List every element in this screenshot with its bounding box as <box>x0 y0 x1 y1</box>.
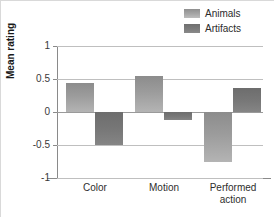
bar-color-artifacts <box>95 112 123 145</box>
gridline-zero: 0 <box>57 112 263 113</box>
legend-label-artifacts: Artifacts <box>205 23 241 34</box>
y-tick-label-0-5: 0.5 <box>36 74 50 84</box>
bar-color-animals <box>66 83 94 112</box>
tick-mark-0 <box>53 112 57 113</box>
bar-motion-artifacts <box>164 112 192 120</box>
y-tick-label-0: 0 <box>44 107 50 117</box>
y-tick-label-1: 1 <box>44 41 50 51</box>
tick-mark-1 <box>53 46 57 47</box>
tick-mark-0-5 <box>53 79 57 80</box>
bar-performed-action-animals <box>204 112 232 162</box>
bar-performed-action-artifacts <box>233 88 261 112</box>
legend-item-artifacts: Artifacts <box>184 22 241 34</box>
tick-mark-neg-1 <box>53 178 57 179</box>
legend-label-animals: Animals <box>205 8 241 19</box>
x-tick-label-performed-action: Performed action <box>188 182 274 206</box>
y-axis-title: Mean rating <box>5 65 16 79</box>
legend-item-animals: Animals <box>184 7 241 19</box>
bar-motion-animals <box>135 76 163 112</box>
y-tick-label-neg-1: -1 <box>41 173 50 183</box>
y-tick-label-neg-0-5: -0.5 <box>33 140 50 150</box>
tick-mark-neg-0-5 <box>53 145 57 146</box>
gridline-neg-1: -1 <box>57 178 263 179</box>
chart-legend: Animals Artifacts <box>184 7 241 34</box>
plot-area: 1 0.5 0 -0.5 -1 Color Motion Performed a… <box>57 46 263 178</box>
gridline-neg-0-5: -0.5 <box>57 145 263 146</box>
bar-chart-figure: Animals Artifacts Mean rating 1 0.5 0 -0… <box>0 0 274 217</box>
artifacts-swatch-icon <box>184 24 200 33</box>
gridline-1: 1 <box>57 46 263 47</box>
animals-swatch-icon <box>184 9 200 18</box>
